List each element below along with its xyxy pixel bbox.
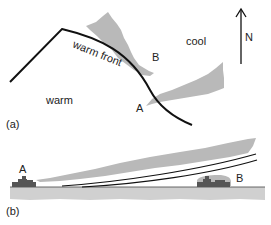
- north-label: N: [245, 31, 253, 43]
- ground: [10, 187, 265, 200]
- panel-b-label: (b): [6, 205, 19, 217]
- cool-label: cool: [186, 35, 206, 47]
- point-a-section-label: A: [19, 163, 27, 175]
- panel-a: warm front warm cool B A N (a): [6, 9, 253, 130]
- warm-label: warm: [45, 94, 73, 106]
- cloud-band-a: [146, 62, 224, 106]
- panel-a-label: (a): [6, 118, 19, 130]
- point-b-label: B: [152, 51, 159, 63]
- point-b-section-label: B: [236, 172, 243, 184]
- panel-b: A B (b): [6, 138, 265, 217]
- warm-front-diagram: warm front warm cool B A N (a) A: [0, 0, 271, 225]
- town-a-icon: [12, 176, 36, 187]
- warm-front-line: [10, 29, 192, 125]
- point-a-label: A: [136, 102, 144, 114]
